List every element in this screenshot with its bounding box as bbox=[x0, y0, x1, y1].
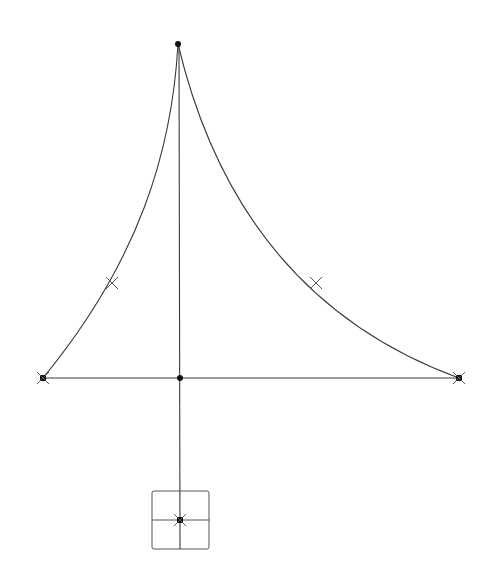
left-curve-edge bbox=[43, 44, 178, 378]
center-node[interactable] bbox=[177, 375, 183, 381]
top-node[interactable] bbox=[175, 41, 181, 47]
right-curve-edge bbox=[178, 44, 459, 378]
cross-marker-right bbox=[310, 277, 322, 289]
diagram-canvas bbox=[0, 0, 494, 580]
vertical-member bbox=[179, 44, 180, 549]
cross-marker-left bbox=[106, 277, 118, 289]
